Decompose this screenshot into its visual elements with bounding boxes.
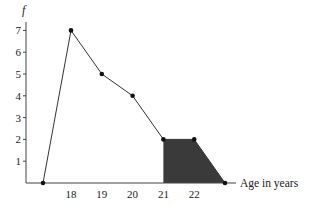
y-tick-label: 3 [16, 112, 22, 124]
shaded-area [163, 139, 225, 183]
x-tick-label: 18 [66, 188, 78, 200]
x-axis-label: Age in years [240, 177, 299, 190]
y-tick-label: 1 [16, 155, 22, 167]
data-point [192, 137, 197, 142]
y-tick-label: 4 [16, 90, 22, 102]
x-tick-label: 20 [127, 188, 139, 200]
x-tick-label: 21 [158, 188, 169, 200]
frequency-polygon-chart: 12345671819202122fAge in years [0, 0, 316, 206]
y-tick-label: 6 [16, 46, 22, 58]
y-tick-label: 5 [16, 68, 22, 80]
data-point [69, 28, 74, 33]
y-tick-label: 2 [16, 133, 22, 145]
data-point [41, 181, 46, 186]
data-point [161, 137, 166, 142]
y-tick-label: 7 [16, 24, 22, 36]
data-point [223, 181, 228, 186]
data-point [100, 72, 105, 77]
data-point [130, 94, 135, 99]
y-axis-label: f [22, 3, 27, 17]
x-tick-label: 22 [189, 188, 200, 200]
x-tick-label: 19 [96, 188, 108, 200]
shaded-region [163, 139, 225, 183]
